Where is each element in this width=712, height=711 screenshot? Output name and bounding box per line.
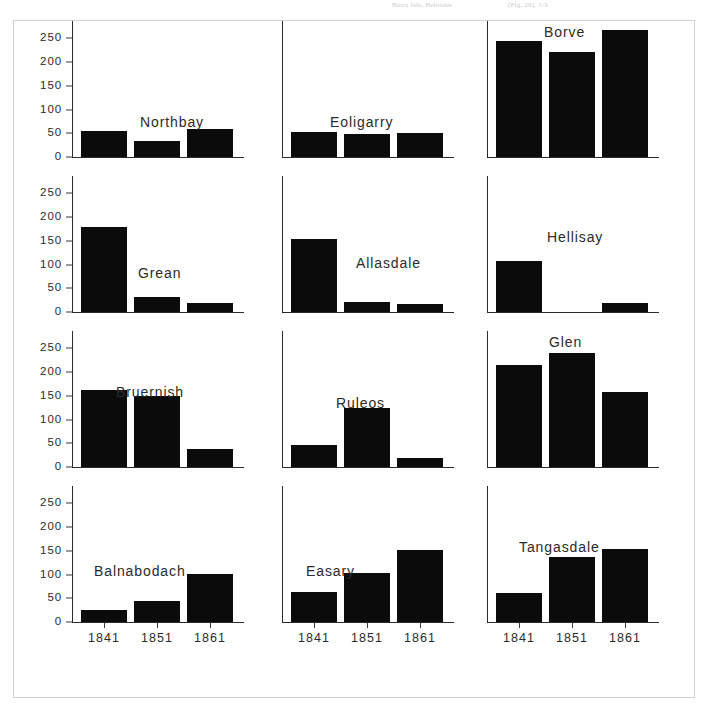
bar-tangasdale-1861[interactable] (602, 549, 648, 622)
bar-bruernish-1851[interactable] (134, 396, 180, 467)
bar-hellisay-1841[interactable] (496, 261, 542, 312)
bar-allasdale-1861[interactable] (397, 304, 443, 312)
small-multiples-panel-grid: 050100150200250NorthbayEoligarryBorve050… (14, 21, 696, 699)
y-axis-tick-label: 150 (40, 235, 62, 247)
y-axis-tick-label: 0 (55, 461, 62, 473)
y-axis-tick-label: 100 (40, 414, 62, 426)
chart-panel-grean[interactable]: Grean (72, 184, 268, 334)
panel-title-ruleos: Ruleos (336, 396, 385, 410)
x-axis-tick-mark (367, 623, 368, 628)
y-axis-tick-label: 250 (40, 343, 62, 355)
bar-easary-1861[interactable] (397, 550, 443, 622)
bar-easary-1851[interactable] (344, 573, 390, 622)
scan-header-fragment-left: Barra Isle, Hebrides (392, 1, 452, 9)
y-axis-tick-label: 100 (40, 104, 62, 116)
bar-bruernish-1841[interactable] (81, 390, 127, 467)
panel-x-axis-line (72, 157, 244, 158)
x-axis-ticks (72, 623, 268, 629)
chart-panel-northbay[interactable]: Northbay (72, 29, 268, 179)
chart-panel-borve[interactable]: Borve (487, 29, 683, 179)
panel-row: 050100150200250Balnabodach184118511861Ea… (14, 494, 696, 644)
y-axis: 050100150200250 (14, 339, 66, 489)
chart-panel-allasdale[interactable]: Allasdale (282, 184, 478, 334)
bar-ruleos-1851[interactable] (344, 408, 390, 467)
panel-title-eoligarry: Eoligarry (330, 115, 393, 129)
chart-panel-tangasdale[interactable]: Tangasdale184118511861 (487, 494, 683, 644)
chart-panel-bruernish[interactable]: Bruernish (72, 339, 268, 489)
bar-ruleos-1861[interactable] (397, 458, 443, 467)
plot-area (73, 339, 268, 467)
bar-bruernish-1861[interactable] (187, 449, 233, 467)
x-axis-tick-label-1861: 1861 (609, 632, 641, 645)
bar-balnabodach-1841[interactable] (81, 610, 127, 622)
bar-allasdale-1841[interactable] (291, 239, 337, 312)
plot-area (283, 29, 478, 157)
bar-balnabodach-1851[interactable] (134, 601, 180, 622)
bar-easary-1841[interactable] (291, 592, 337, 622)
bar-borve-1851[interactable] (549, 52, 595, 157)
plot-area (73, 494, 268, 622)
chart-panel-hellisay[interactable]: Hellisay (487, 184, 683, 334)
panel-title-allasdale: Allasdale (356, 256, 421, 270)
y-axis-tick-label: 200 (40, 211, 62, 223)
chart-panel-glen[interactable]: Glen (487, 339, 683, 489)
x-axis-tick-mark (157, 623, 158, 628)
panel-title-grean: Grean (138, 266, 181, 280)
bar-borve-1861[interactable] (602, 30, 648, 157)
plot-area (488, 29, 683, 157)
bar-balnabodach-1861[interactable] (187, 574, 233, 622)
bar-glen-1851[interactable] (549, 353, 595, 467)
bar-hellisay-1861[interactable] (602, 303, 648, 312)
y-axis-tick-label: 0 (55, 151, 62, 163)
y-axis: 050100150200250 (14, 29, 66, 179)
y-axis: 050100150200250 (14, 494, 66, 644)
y-axis-tick-label: 100 (40, 259, 62, 271)
bar-grean-1851[interactable] (134, 297, 180, 312)
bar-northbay-1851[interactable] (134, 141, 180, 157)
bar-tangasdale-1841[interactable] (496, 593, 542, 622)
x-axis-tick-label-1861: 1861 (194, 632, 226, 645)
panel-row: 050100150200250GreanAllasdaleHellisay (14, 184, 696, 334)
x-axis-tick-label-1851: 1851 (141, 632, 173, 645)
figure-frame: 050100150200250NorthbayEoligarryBorve050… (13, 20, 695, 698)
x-axis-tick-label-1841: 1841 (298, 632, 330, 645)
bar-eoligarry-1841[interactable] (291, 132, 337, 157)
y-axis-tick-label: 150 (40, 390, 62, 402)
bar-glen-1861[interactable] (602, 392, 648, 467)
bar-glen-1841[interactable] (496, 365, 542, 467)
y-axis-tick-label: 250 (40, 33, 62, 45)
bar-allasdale-1851[interactable] (344, 302, 390, 312)
chart-panel-eoligarry[interactable]: Eoligarry (282, 29, 478, 179)
bar-grean-1841[interactable] (81, 227, 127, 312)
y-axis-tick-label: 50 (47, 128, 62, 140)
bar-ruleos-1841[interactable] (291, 445, 337, 467)
panel-title-bruernish: Bruernish (116, 385, 184, 399)
bar-eoligarry-1861[interactable] (397, 133, 443, 157)
bar-grean-1861[interactable] (187, 303, 233, 312)
plot-area (283, 494, 478, 622)
x-axis-tick-label-1851: 1851 (351, 632, 383, 645)
panel-x-axis-line (487, 312, 659, 313)
panel-title-borve: Borve (544, 25, 585, 39)
panel-title-glen: Glen (549, 335, 582, 349)
panel-x-axis-line (282, 157, 454, 158)
panel-title-northbay: Northbay (140, 115, 204, 129)
x-axis-tick-mark (104, 623, 105, 628)
x-axis-tick-mark (314, 623, 315, 628)
bar-northbay-1841[interactable] (81, 131, 127, 157)
x-axis-labels: 184118511861 (72, 632, 268, 650)
chart-panel-easary[interactable]: Easary184118511861 (282, 494, 478, 644)
chart-panel-ruleos[interactable]: Ruleos (282, 339, 478, 489)
chart-panel-balnabodach[interactable]: Balnabodach184118511861 (72, 494, 268, 644)
bar-borve-1841[interactable] (496, 41, 542, 157)
bar-eoligarry-1851[interactable] (344, 134, 390, 157)
bar-tangasdale-1851[interactable] (549, 557, 595, 622)
panel-title-balnabodach: Balnabodach (94, 564, 186, 578)
x-axis-tick-label-1851: 1851 (556, 632, 588, 645)
x-axis-tick-mark (625, 623, 626, 628)
panel-title-hellisay: Hellisay (547, 230, 603, 244)
y-axis: 050100150200250 (14, 184, 66, 334)
plot-area (73, 184, 268, 312)
x-axis-tick-mark (572, 623, 573, 628)
bar-northbay-1861[interactable] (187, 129, 233, 157)
